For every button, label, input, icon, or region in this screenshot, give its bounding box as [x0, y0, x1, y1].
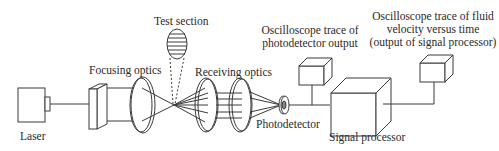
test-section-label: Test section	[154, 15, 208, 28]
oscilloscope-2-icon	[420, 55, 453, 82]
laser-icon	[18, 88, 50, 122]
test-section-icon	[167, 29, 187, 59]
scope1-label: Oscilloscope trace of photodetector outp…	[255, 24, 365, 50]
scope2-label: Oscilloscope trace of fluid velocity ver…	[368, 10, 498, 49]
oscilloscope-1-icon	[299, 58, 332, 85]
test-section-cone	[170, 58, 184, 104]
photodetector-icon	[279, 96, 289, 114]
focusing-lens-icon	[130, 77, 155, 133]
photodetector-label: Photodetector	[256, 118, 320, 131]
signal-processor-icon	[331, 78, 391, 136]
beam-splitter-icon	[89, 84, 107, 129]
focusing-optics-label: Focusing optics	[89, 64, 162, 77]
receiving-optics-label: Receiving optics	[195, 66, 272, 79]
laser-label: Laser	[20, 130, 46, 143]
signal-processor-label: Signal processor	[329, 131, 405, 144]
